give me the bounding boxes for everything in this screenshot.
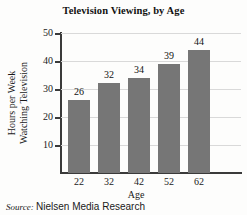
y-axis-tick-label: 40 [27, 56, 53, 66]
x-axis-label: Age [61, 189, 211, 200]
bar [158, 64, 180, 173]
x-axis-tick-label: 32 [92, 177, 126, 187]
bar-value-label: 44 [182, 37, 216, 47]
chart-figure: Television Viewing, by Age Hours per Wee… [0, 0, 247, 215]
y-axis-label: Hours per Week Watching Television [2, 30, 32, 175]
y-axis-label-line-1: Hours per Week [6, 62, 18, 144]
gridline [61, 61, 241, 62]
y-axis-tick-label: 20 [27, 112, 53, 122]
x-axis-tick-label: 42 [122, 177, 156, 187]
source-text: Nielsen Media Research [36, 201, 145, 212]
source-label: Source: [6, 202, 34, 212]
y-axis-label-line-2: Watching Television [17, 62, 29, 144]
bar [188, 50, 210, 173]
x-axis-tick-label: 62 [182, 177, 216, 187]
chart-title: Television Viewing, by Age [0, 5, 247, 16]
gridline [61, 33, 241, 34]
bar-value-label: 26 [62, 87, 96, 97]
plot-area [61, 33, 241, 173]
y-axis-tick-label: 30 [27, 84, 53, 94]
y-axis-tick-label: 50 [27, 28, 53, 38]
x-axis-tick-label: 22 [62, 177, 96, 187]
x-axis-tick-label: 52 [152, 177, 186, 187]
bar-value-label: 39 [152, 51, 186, 61]
bar [98, 83, 120, 173]
bar-value-label: 34 [122, 65, 156, 75]
bar [68, 100, 90, 173]
bar [128, 78, 150, 173]
y-axis-tick-label: 10 [27, 140, 53, 150]
bar-value-label: 32 [92, 70, 126, 80]
source-note: Source: Nielsen Media Research [6, 201, 145, 212]
